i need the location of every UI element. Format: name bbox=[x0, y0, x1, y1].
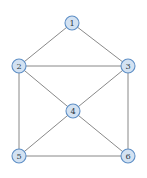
graph-node-3[interactable]: 3 bbox=[121, 59, 135, 73]
graph-node-4[interactable]: 4 bbox=[66, 104, 80, 118]
graph-edge-3-4 bbox=[73, 66, 128, 111]
node-layer: 123456 bbox=[12, 16, 135, 163]
graph-edge-2-4 bbox=[19, 66, 73, 111]
graph-node-2[interactable]: 2 bbox=[12, 59, 26, 73]
graph-node-label-1: 1 bbox=[69, 18, 74, 28]
graph-edge-4-6 bbox=[73, 111, 128, 156]
graph-node-6[interactable]: 6 bbox=[121, 149, 135, 163]
graph-node-label-2: 2 bbox=[16, 61, 21, 71]
graph-node-1[interactable]: 1 bbox=[65, 16, 79, 30]
graph-canvas: 123456 bbox=[0, 0, 147, 178]
graph-edge-1-2 bbox=[19, 23, 72, 66]
graph-edge-1-3 bbox=[72, 23, 128, 66]
graph-edge-4-5 bbox=[19, 111, 73, 156]
edge-layer bbox=[19, 23, 128, 156]
graph-node-5[interactable]: 5 bbox=[12, 149, 26, 163]
graph-node-label-3: 3 bbox=[125, 61, 130, 71]
graph-node-label-4: 4 bbox=[70, 106, 75, 116]
graph-node-label-6: 6 bbox=[125, 151, 130, 161]
graph-node-label-5: 5 bbox=[16, 151, 21, 161]
graph-figure: 123456 bbox=[0, 0, 147, 178]
